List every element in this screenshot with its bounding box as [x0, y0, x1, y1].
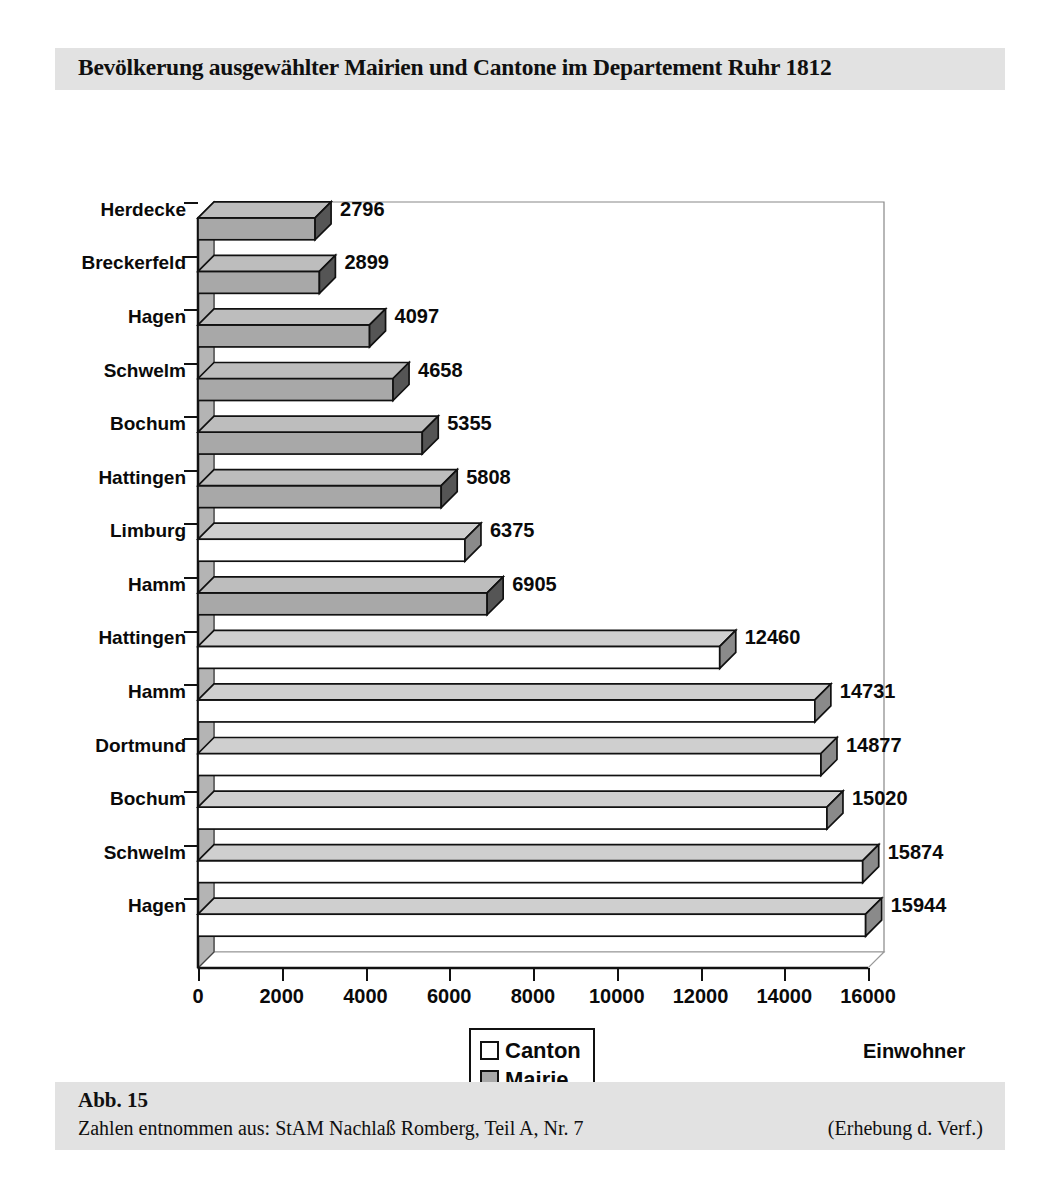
category-label: Hattingen — [98, 468, 186, 487]
x-axis-tick — [784, 968, 786, 981]
y-axis-tick — [184, 631, 198, 633]
y-axis-tick — [184, 898, 198, 900]
category-label: Hattingen — [98, 628, 186, 647]
figure-source-text: Zahlen entnommen aus: StAM Nachlaß Rombe… — [78, 1117, 584, 1140]
category-label: Hamm — [128, 682, 186, 701]
y-axis-tick — [184, 684, 198, 686]
bar[interactable] — [198, 791, 843, 829]
y-axis-tick — [184, 202, 198, 204]
x-axis-title: Einwohner — [863, 1040, 965, 1063]
bar[interactable] — [198, 363, 409, 401]
y-axis-tick — [184, 791, 198, 793]
category-label: Bochum — [110, 414, 186, 433]
bar[interactable] — [198, 255, 335, 293]
bar[interactable] — [198, 845, 879, 883]
y-axis-tick — [184, 309, 198, 311]
category-label: Bochum — [110, 789, 186, 808]
y-axis-tick — [184, 845, 198, 847]
bar[interactable] — [198, 523, 481, 561]
figure-note-text: (Erhebung d. Verf.) — [828, 1117, 983, 1140]
category-label: Limburg — [110, 521, 186, 540]
bar-value-label: 5355 — [447, 413, 492, 433]
chart-body: 15944Hagen15874Schwelm15020Bochum14877Do… — [55, 90, 1005, 1082]
category-label: Dortmund — [95, 736, 186, 755]
x-axis-tick — [282, 968, 284, 981]
x-axis-tick — [198, 968, 200, 981]
category-label: Herdecke — [100, 200, 186, 219]
y-axis-tick — [184, 470, 198, 472]
category-label: Hamm — [128, 575, 186, 594]
bar[interactable] — [198, 416, 438, 454]
category-label: Schwelm — [104, 361, 186, 380]
bar-value-label: 15020 — [852, 788, 908, 808]
bar-value-label: 2899 — [344, 252, 389, 272]
category-label: Hagen — [128, 896, 186, 915]
bar-value-label: 6905 — [512, 574, 557, 594]
bar[interactable] — [198, 898, 882, 936]
x-axis-tick — [449, 968, 451, 981]
category-label: Hagen — [128, 307, 186, 326]
bar-value-label: 15874 — [888, 842, 944, 862]
figure-footer-band: Abb. 15 Zahlen entnommen aus: StAM Nachl… — [55, 1082, 1005, 1150]
bar-value-label: 12460 — [745, 627, 801, 647]
bar-value-label: 4097 — [395, 306, 440, 326]
bar[interactable] — [198, 470, 457, 508]
y-axis-tick — [184, 256, 198, 258]
y-axis-tick — [184, 577, 198, 579]
bar[interactable] — [198, 684, 831, 722]
y-axis-tick — [184, 363, 198, 365]
figure-number: Abb. 15 — [78, 1088, 148, 1113]
bar-value-label: 5808 — [466, 467, 511, 487]
figure-container: Bevölkerung ausgewählter Mairien und Can… — [55, 48, 1005, 1150]
bar-value-label: 2796 — [340, 199, 385, 219]
x-axis-tick-label: 16000 — [808, 986, 928, 1006]
figure-title: Bevölkerung ausgewählter Mairien und Can… — [78, 54, 831, 81]
bar[interactable] — [198, 202, 331, 240]
y-axis-tick — [184, 738, 198, 740]
bar[interactable] — [198, 738, 837, 776]
legend-item[interactable]: Canton — [480, 1036, 581, 1065]
x-axis-tick — [366, 968, 368, 981]
y-axis-tick — [184, 523, 198, 525]
x-axis-tick — [533, 968, 535, 981]
legend-swatch-canton — [480, 1041, 499, 1060]
x-axis-tick — [617, 968, 619, 981]
bar-value-label: 4658 — [418, 360, 463, 380]
x-axis-tick — [868, 968, 870, 981]
bar-value-label: 6375 — [490, 520, 535, 540]
category-label: Schwelm — [104, 843, 186, 862]
y-axis-tick — [184, 416, 198, 418]
x-axis-tick — [701, 968, 703, 981]
bar[interactable] — [198, 630, 736, 668]
legend-label: Canton — [505, 1040, 581, 1062]
bar[interactable] — [198, 309, 386, 347]
bar-value-label: 14731 — [840, 681, 896, 701]
plot-area: 15944Hagen15874Schwelm15020Bochum14877Do… — [55, 90, 1005, 1082]
category-label: Breckerfeld — [81, 253, 186, 272]
bar[interactable] — [198, 577, 503, 615]
figure-title-band: Bevölkerung ausgewählter Mairien und Can… — [55, 48, 1005, 90]
bar-value-label: 14877 — [846, 735, 902, 755]
bar-value-label: 15944 — [891, 895, 947, 915]
